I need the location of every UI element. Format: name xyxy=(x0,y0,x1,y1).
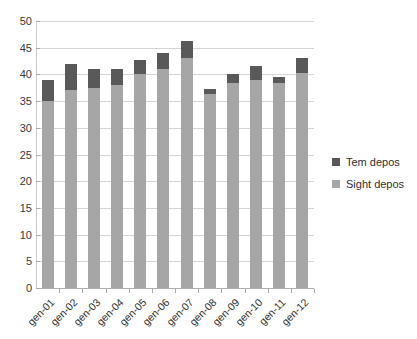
bar-group[interactable] xyxy=(111,69,123,288)
x-axis-tick-mark xyxy=(291,289,292,293)
bar-segment-tem-depos[interactable] xyxy=(250,66,262,79)
y-axis-tick-label: 45 xyxy=(4,42,32,53)
y-axis-tick-mark xyxy=(36,288,40,289)
x-axis-tick-mark xyxy=(152,289,153,293)
bar-segment-tem-depos[interactable] xyxy=(227,74,239,83)
bar-group[interactable] xyxy=(250,66,262,288)
bar-segment-tem-depos[interactable] xyxy=(65,64,77,91)
bar-segment-tem-depos[interactable] xyxy=(88,69,100,88)
legend-item[interactable]: Tem depos xyxy=(332,153,416,171)
y-axis-tick-label: 15 xyxy=(4,202,32,213)
legend-item[interactable]: Sight depos xyxy=(332,175,416,193)
y-axis-tick-label: 10 xyxy=(4,229,32,240)
legend-item-label: Sight depos xyxy=(346,178,404,190)
bar-group[interactable] xyxy=(134,60,146,288)
y-axis-tick-label: 25 xyxy=(4,149,32,160)
bar-group[interactable] xyxy=(204,89,216,288)
bar-group[interactable] xyxy=(273,77,285,288)
bar-segment-tem-depos[interactable] xyxy=(273,77,285,83)
y-axis-tick-mark xyxy=(36,74,40,75)
legend: Tem deposSight depos xyxy=(332,153,416,197)
x-axis: gen-01gen-02gen-03gen-04gen-05gen-06gen-… xyxy=(36,289,314,339)
y-axis-tick-label: 0 xyxy=(4,283,32,294)
y-axis-tick-label: 40 xyxy=(4,69,32,80)
bar-segment-tem-depos[interactable] xyxy=(134,60,146,74)
y-axis-tick-mark xyxy=(36,208,40,209)
bar-segment-tem-depos[interactable] xyxy=(204,89,216,94)
y-axis-tick-mark xyxy=(36,101,40,102)
bar-segment-sight-depos[interactable] xyxy=(88,88,100,288)
bar-group[interactable] xyxy=(65,64,77,288)
y-axis-tick-label: 5 xyxy=(4,256,32,267)
y-axis-tick-label: 20 xyxy=(4,176,32,187)
bar-chart: 05101520253035404550 gen-01gen-02gen-03g… xyxy=(0,0,417,339)
y-axis-tick-mark xyxy=(36,181,40,182)
plot-area xyxy=(36,21,314,288)
bar-segment-sight-depos[interactable] xyxy=(181,58,193,288)
bar-group[interactable] xyxy=(157,53,169,288)
bar-segment-tem-depos[interactable] xyxy=(42,80,54,101)
legend-swatch-icon xyxy=(332,158,340,166)
bar-segment-sight-depos[interactable] xyxy=(227,83,239,288)
bar-segment-sight-depos[interactable] xyxy=(157,69,169,288)
legend-swatch-icon xyxy=(332,180,340,188)
legend-item-label: Tem depos xyxy=(346,156,400,168)
y-axis-tick-label: 35 xyxy=(4,96,32,107)
y-axis-tick-mark xyxy=(36,235,40,236)
y-axis-tick-mark xyxy=(36,261,40,262)
bar-segment-sight-depos[interactable] xyxy=(273,83,285,288)
bar-group[interactable] xyxy=(227,74,239,288)
bar-group[interactable] xyxy=(296,58,308,288)
x-axis-tick-mark xyxy=(268,289,269,293)
bar-group[interactable] xyxy=(88,69,100,288)
bar-segment-sight-depos[interactable] xyxy=(296,73,308,288)
x-axis-tick-mark xyxy=(59,289,60,293)
y-axis-tick-label: 30 xyxy=(4,122,32,133)
bar-series-container xyxy=(36,21,314,288)
x-axis-tick-mark xyxy=(198,289,199,293)
bar-segment-tem-depos[interactable] xyxy=(111,69,123,85)
x-axis-tick-mark xyxy=(314,289,315,293)
x-axis-tick-mark xyxy=(129,289,130,293)
y-axis-tick-mark xyxy=(36,155,40,156)
bar-segment-tem-depos[interactable] xyxy=(296,58,308,72)
y-axis-tick-label: 50 xyxy=(4,16,32,27)
x-axis-tick-mark xyxy=(82,289,83,293)
bar-segment-sight-depos[interactable] xyxy=(42,101,54,288)
bar-segment-sight-depos[interactable] xyxy=(204,94,216,288)
bar-segment-sight-depos[interactable] xyxy=(111,85,123,288)
x-axis-tick-mark xyxy=(245,289,246,293)
x-axis-tick-mark xyxy=(221,289,222,293)
bar-segment-tem-depos[interactable] xyxy=(181,41,193,58)
bar-group[interactable] xyxy=(42,80,54,288)
bar-group[interactable] xyxy=(181,41,193,288)
bar-segment-tem-depos[interactable] xyxy=(157,53,169,69)
bar-segment-sight-depos[interactable] xyxy=(134,74,146,288)
x-axis-tick-mark xyxy=(175,289,176,293)
y-axis-tick-mark xyxy=(36,48,40,49)
y-axis-tick-mark xyxy=(36,21,40,22)
bar-segment-sight-depos[interactable] xyxy=(65,90,77,288)
y-axis: 05101520253035404550 xyxy=(0,21,32,288)
x-axis-tick-mark xyxy=(106,289,107,293)
bar-segment-sight-depos[interactable] xyxy=(250,80,262,288)
y-axis-tick-mark xyxy=(36,128,40,129)
